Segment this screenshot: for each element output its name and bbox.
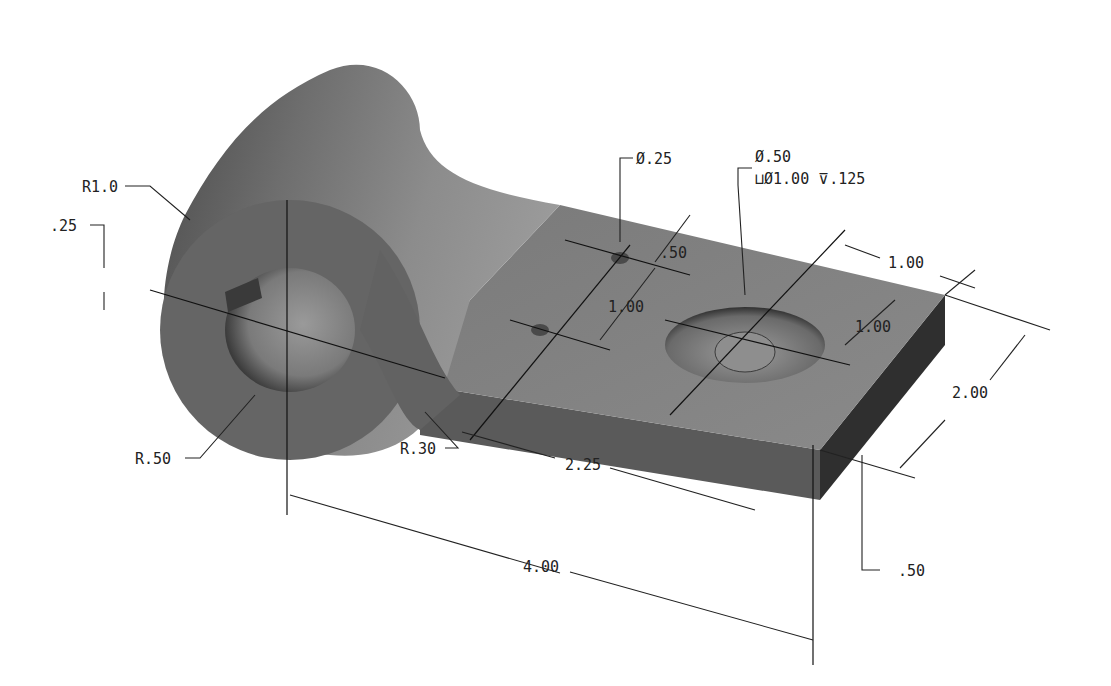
part-drawing: R1.0 .25 R.50 R.30 Ø.25 .50 1.00 Ø.50 ⊔Ø… — [0, 0, 1111, 686]
dim-cbore-hole-dia: Ø.50 — [755, 148, 791, 166]
dim-small-hole-dia: Ø.25 — [636, 150, 672, 168]
dim-overall-length: 4.00 — [523, 558, 559, 576]
dim-small-hole-offset: .50 — [660, 244, 687, 262]
cbore-through-hole — [715, 332, 775, 372]
dim-slot-width: .25 — [50, 217, 77, 235]
dimension-r1: R1.0 — [82, 178, 190, 220]
dim-plate-length: 2.25 — [565, 456, 601, 474]
dimension-plate-thickness: .50 — [862, 455, 925, 580]
dim-small-hole-spacing: 1.00 — [608, 298, 644, 316]
dim-fillet-radius: R.30 — [400, 440, 436, 458]
dimension-slot: .25 — [50, 217, 104, 310]
dim-cbore-from-edge: 1.00 — [855, 318, 891, 336]
dim-boss-radius: R1.0 — [82, 178, 118, 196]
dim-cbore-from-end: 1.00 — [888, 254, 924, 272]
dim-bore-radius: R.50 — [135, 450, 171, 468]
part-body — [160, 65, 945, 500]
dim-cbore-callout: ⊔Ø1.00 ⊽.125 — [755, 170, 865, 188]
dim-plate-thickness: .50 — [898, 562, 925, 580]
dim-plate-width: 2.00 — [952, 384, 988, 402]
small-hole-2 — [531, 324, 549, 336]
dimension-overall-length: 4.00 — [290, 495, 813, 640]
